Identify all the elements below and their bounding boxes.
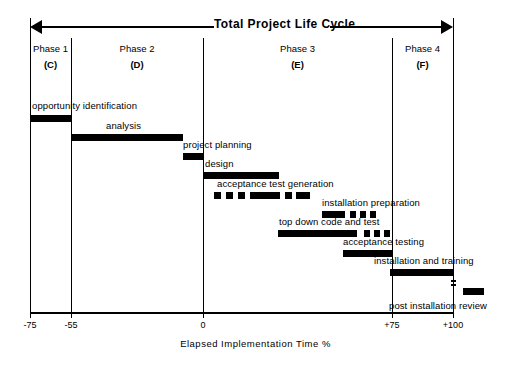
axis-tick-label: -55 [51,320,91,330]
phase-code: (F) [392,58,453,71]
x-axis-title: Elapsed Implementation Time % [0,338,511,349]
task-bar-segment [303,192,310,199]
task-bar [214,192,310,199]
phase-header-1: Phase 1(C) [30,42,71,71]
x-axis-line [30,312,453,314]
task-label: acceptance test generation [217,178,334,189]
phase-header-3: Phase 3(E) [203,42,392,71]
task-label: acceptance testing [343,236,424,247]
task-label: project planning [183,139,252,150]
axis-tick [30,312,31,318]
task-label: opportunity identification [32,100,137,111]
phase-header-4: Phase 4(F) [392,42,453,71]
arrow-right-icon [441,20,453,34]
axis-end-line [453,18,454,312]
project-lifecycle-chart: Total Project Life Cycle Phase 1(C)Phase… [0,0,511,368]
task-bar [390,269,453,276]
phase-name: Phase 4 [405,43,440,54]
phase-code: (D) [71,58,203,71]
axis-tick [453,312,454,318]
task-bar-segment [250,192,280,199]
axis-tick-label: +100 [433,320,473,330]
total-project-life-cycle-band: Total Project Life Cycle [30,18,453,36]
post-installation-marker [451,280,456,282]
task-bar [183,153,203,160]
task-label: installation preparation [322,197,420,208]
axis-tick [203,312,204,318]
task-bar [30,115,71,122]
post-installation-marker [451,284,456,286]
axis-tick [71,312,72,318]
phase-code: (C) [30,58,71,71]
task-bar-segment [214,192,221,199]
task-bar-segment [296,192,303,199]
axis-tick-label: -75 [10,320,50,330]
phase-name: Phase 1 [33,43,68,54]
phase1-phase2-line [71,38,72,312]
task-bar-segment [226,192,233,199]
task-label: design [205,158,234,169]
phase-name: Phase 3 [280,43,315,54]
task-label: top down code and test [279,216,379,227]
phase-header-2: Phase 2(D) [71,42,203,71]
title-rule-left [38,26,214,28]
task-bar [71,134,183,141]
task-label: post installation review [389,300,487,311]
task-bar-segment [238,192,245,199]
title-rule-right [330,26,444,28]
task-bar [463,288,484,295]
chart-title: Total Project Life Cycle [214,17,332,31]
axis-tick-label: +75 [372,320,412,330]
task-label: analysis [106,120,141,131]
task-label: installation and training [374,255,474,266]
phase-name: Phase 2 [120,43,155,54]
axis-tick [392,312,393,318]
task-bar-segment [285,192,292,199]
axis-tick-label: 0 [183,320,223,330]
phase-code: (E) [203,58,392,71]
